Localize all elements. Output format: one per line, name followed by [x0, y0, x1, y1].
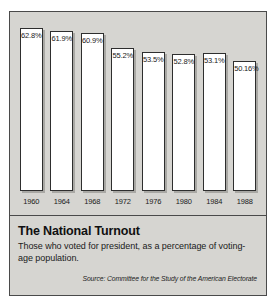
bar[interactable]: 52.8%	[172, 54, 195, 191]
bar-value-label: 61.9%	[51, 34, 72, 43]
x-axis-tick-label: 1988	[230, 196, 261, 208]
x-axis-tick-label: 1960	[16, 196, 47, 208]
bar-value-label: 52.8%	[173, 57, 194, 66]
bar-slot: 53.5%	[142, 20, 165, 191]
bar[interactable]: 60.9%	[81, 33, 104, 191]
chart-plot-panel: 62.8%61.9%60.9%55.2%53.5%52.8%53.1%50.16…	[10, 12, 266, 215]
bar-value-label: 50.16%	[234, 64, 255, 73]
bar[interactable]: 62.8%	[20, 28, 43, 191]
bar[interactable]: 61.9%	[50, 31, 73, 191]
bar-value-label: 62.8%	[21, 31, 42, 40]
bar-slot: 60.9%	[81, 20, 104, 191]
x-axis-tick-label: 1976	[138, 196, 169, 208]
bar-slot: 55.2%	[111, 20, 134, 191]
bar-value-label: 53.5%	[143, 55, 164, 64]
caption-block: The National Turnout Those who voted for…	[10, 216, 266, 295]
bar-slot: 62.8%	[20, 20, 43, 191]
x-axis-tick-label: 1984	[199, 196, 230, 208]
bar-slot: 50.16%	[233, 20, 256, 191]
bar[interactable]: 50.16%	[233, 61, 256, 191]
x-axis-tick-label: 1968	[77, 196, 108, 208]
bar-slot: 61.9%	[50, 20, 73, 191]
bar[interactable]: 55.2%	[111, 48, 134, 191]
bars-container: 62.8%61.9%60.9%55.2%53.5%52.8%53.1%50.16…	[16, 20, 260, 191]
bar-value-label: 55.2%	[112, 51, 133, 60]
bar[interactable]: 53.1%	[203, 53, 226, 191]
bar-value-label: 53.1%	[204, 56, 225, 65]
x-axis-tick-label: 1980	[169, 196, 200, 208]
bar-value-label: 60.9%	[82, 36, 103, 45]
x-axis-labels: 19601964196819721976198019841988	[16, 196, 260, 210]
bar[interactable]: 53.5%	[142, 52, 165, 191]
x-axis-tick-label: 1972	[108, 196, 139, 208]
bar-slot: 52.8%	[172, 20, 195, 191]
bar-slot: 53.1%	[203, 20, 226, 191]
chart-subtitle: Those who voted for president, as a perc…	[18, 241, 250, 264]
chart-title: The National Turnout	[18, 224, 258, 239]
x-axis-tick-label: 1964	[47, 196, 78, 208]
chart-figure: 62.8%61.9%60.9%55.2%53.5%52.8%53.1%50.16…	[9, 11, 267, 296]
chart-source: Source: Committee for the Study of the A…	[82, 274, 257, 283]
